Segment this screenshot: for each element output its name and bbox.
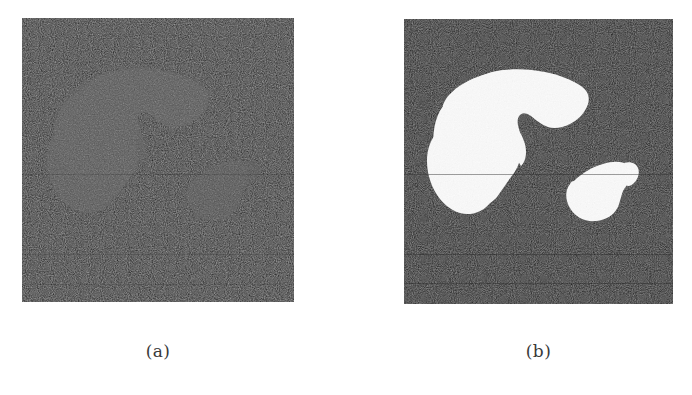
panel-a-scanline [22, 254, 294, 255]
panel-a-scanline [22, 174, 294, 175]
panel-b-scanline [404, 174, 673, 175]
panel-b-image [404, 19, 673, 304]
panel-b-binary-mask [404, 19, 673, 304]
panel-a-grayscale-segmentation [22, 18, 294, 302]
panel-a-caption: (a) [22, 341, 294, 361]
panel-b-caption: (b) [404, 341, 673, 361]
panel-b-scanline [404, 254, 673, 255]
panel-a-image [22, 18, 294, 302]
figure-two-panel: (a) [0, 0, 692, 395]
panel-a-scanline [22, 284, 294, 285]
panel-b-scanline [404, 283, 673, 284]
